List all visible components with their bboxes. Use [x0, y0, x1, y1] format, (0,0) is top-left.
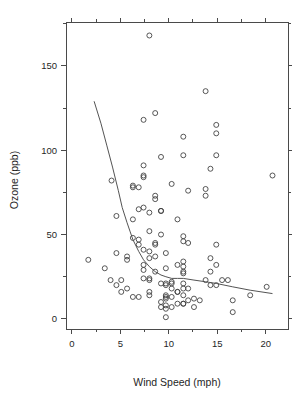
- y-tick-label: 150: [41, 60, 57, 71]
- data-point: [186, 240, 191, 245]
- data-point: [136, 237, 141, 242]
- data-point: [175, 289, 180, 294]
- scatter-plot-figure: 05101520 050100150 Wind Speed (mph) Ozon…: [0, 0, 307, 400]
- scatter-points: [86, 33, 275, 320]
- data-point: [159, 300, 164, 305]
- data-point: [181, 301, 186, 306]
- x-tick-label: 10: [163, 338, 174, 349]
- data-point: [181, 234, 186, 239]
- data-point: [175, 301, 180, 306]
- y-tick-label: 50: [46, 229, 57, 240]
- data-point: [147, 256, 152, 261]
- data-point: [214, 122, 219, 127]
- data-point: [136, 207, 141, 212]
- data-point: [203, 89, 208, 94]
- data-point: [136, 185, 141, 190]
- data-point: [181, 153, 186, 158]
- data-point: [159, 154, 164, 159]
- data-point: [163, 306, 168, 311]
- data-point: [114, 213, 119, 218]
- data-point: [270, 173, 275, 178]
- data-point: [181, 264, 186, 269]
- data-point: [159, 281, 164, 286]
- data-point: [181, 281, 186, 286]
- data-point: [220, 278, 225, 283]
- x-axis-tick-labels: 05101520: [69, 338, 271, 349]
- x-tick-label: 5: [118, 338, 123, 349]
- lowess-smooth-line: [94, 101, 272, 293]
- x-tick-label: 15: [212, 338, 223, 349]
- plot-frame: [66, 22, 288, 329]
- data-point: [147, 33, 152, 38]
- data-point: [119, 289, 124, 294]
- data-point: [153, 193, 158, 198]
- data-point: [248, 293, 253, 298]
- data-point: [169, 294, 174, 299]
- data-point: [214, 242, 219, 247]
- data-point: [230, 298, 235, 303]
- data-point: [181, 259, 186, 264]
- data-point: [208, 283, 213, 288]
- data-point: [191, 296, 196, 301]
- data-point: [141, 267, 146, 272]
- data-point: [186, 188, 191, 193]
- data-point: [119, 278, 124, 283]
- data-point: [114, 251, 119, 256]
- data-point: [175, 217, 180, 222]
- y-axis-tick-labels: 050100150: [41, 60, 57, 324]
- data-point: [186, 286, 191, 291]
- data-point: [102, 266, 107, 271]
- data-point: [163, 266, 168, 271]
- data-point: [141, 117, 146, 122]
- data-point: [186, 298, 191, 303]
- data-point: [147, 210, 152, 215]
- data-point: [141, 205, 146, 210]
- data-point: [153, 111, 158, 116]
- data-point: [214, 262, 219, 267]
- data-point: [203, 193, 208, 198]
- data-point: [141, 262, 146, 267]
- data-point: [264, 284, 269, 289]
- data-point: [214, 131, 219, 136]
- data-point: [169, 286, 174, 291]
- data-point: [181, 239, 186, 244]
- y-axis-ticks: [61, 24, 292, 319]
- data-point: [159, 232, 164, 237]
- data-point: [130, 217, 135, 222]
- data-point: [181, 134, 186, 139]
- data-point: [208, 269, 213, 274]
- data-point: [130, 294, 135, 299]
- data-point: [181, 293, 186, 298]
- data-point: [208, 166, 213, 171]
- plot-canvas: 05101520 050100150 Wind Speed (mph) Ozon…: [0, 0, 307, 400]
- data-point: [203, 186, 208, 191]
- data-point: [175, 262, 180, 267]
- data-point: [141, 163, 146, 168]
- data-point: [147, 293, 152, 298]
- data-point: [169, 305, 174, 310]
- data-point: [181, 286, 186, 291]
- x-tick-label: 0: [69, 338, 74, 349]
- data-point: [141, 247, 146, 252]
- data-point: [136, 294, 141, 299]
- y-axis-title: Ozone (ppb): [8, 151, 20, 209]
- data-point: [197, 298, 202, 303]
- data-point: [136, 242, 141, 247]
- data-point: [109, 178, 114, 183]
- y-tick-label: 100: [41, 145, 57, 156]
- data-point: [125, 286, 130, 291]
- data-point: [108, 278, 113, 283]
- x-axis-ticks: [72, 18, 266, 334]
- data-point: [163, 251, 168, 256]
- data-point: [163, 315, 168, 320]
- x-axis-title: Wind Speed (mph): [133, 376, 221, 388]
- data-point: [191, 305, 196, 310]
- data-point: [86, 257, 91, 262]
- data-point: [208, 256, 213, 261]
- data-point: [147, 229, 152, 234]
- data-point: [141, 276, 146, 281]
- y-tick-label: 0: [52, 313, 57, 324]
- data-point: [225, 278, 230, 283]
- data-point: [147, 249, 152, 254]
- data-point: [114, 283, 119, 288]
